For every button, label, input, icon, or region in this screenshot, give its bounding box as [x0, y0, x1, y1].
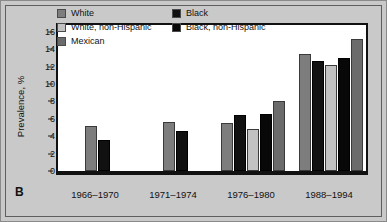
legend-item: Mexican [57, 35, 152, 48]
legend-label: White [71, 9, 94, 18]
bar [273, 101, 285, 171]
y-tick-mark [48, 49, 53, 50]
legend-column: WhiteWhite, non-HispanicMexican [57, 7, 152, 49]
bar [325, 65, 337, 171]
legend-label: Mexican [71, 37, 105, 46]
legend-item: White, non-Hispanic [57, 21, 152, 34]
legend-swatch-icon [172, 23, 181, 32]
x-tick-label: 1971–1974 [149, 189, 197, 200]
legend-swatch-icon [57, 37, 66, 46]
y-tick-mark [48, 31, 53, 32]
legend-label: Black [186, 9, 208, 18]
y-tick-mark [48, 118, 53, 119]
y-tick-mark [48, 153, 53, 154]
legend-column: BlackBlack, non-Hispanic [172, 7, 266, 35]
bar [98, 140, 110, 171]
x-axis-baseline [56, 171, 368, 175]
legend-label: White, non-Hispanic [71, 23, 152, 32]
y-tick-mark [48, 66, 53, 67]
y-tick-mark [48, 101, 53, 102]
bar [312, 61, 324, 171]
bar [351, 39, 363, 171]
legend-item: Black, non-Hispanic [172, 21, 266, 34]
bar [234, 115, 246, 171]
bar [163, 122, 175, 171]
x-tick-label: 1976–1980 [227, 189, 275, 200]
legend-swatch-icon [172, 9, 181, 18]
bar [247, 129, 259, 171]
y-tick-mark [48, 136, 53, 137]
legend-swatch-icon [57, 9, 66, 18]
bar [260, 114, 272, 171]
y-tick-mark [48, 83, 53, 84]
figure-panel-b: B Prevalence, % 0246810121416 WhiteWhite… [0, 0, 387, 222]
x-tick-label: 1988–1994 [305, 189, 353, 200]
bar [221, 123, 233, 171]
x-tick-label: 1966–1970 [71, 189, 119, 200]
bar [299, 54, 311, 171]
bar [176, 131, 188, 171]
legend-item: Black [172, 7, 266, 20]
legend-label: Black, non-Hispanic [186, 23, 266, 32]
legend-item: White [57, 7, 152, 20]
y-axis: 0246810121416 [23, 1, 55, 222]
bar [85, 126, 97, 171]
y-tick-mark [48, 171, 53, 172]
legend-swatch-icon [57, 23, 66, 32]
bar [338, 58, 350, 171]
